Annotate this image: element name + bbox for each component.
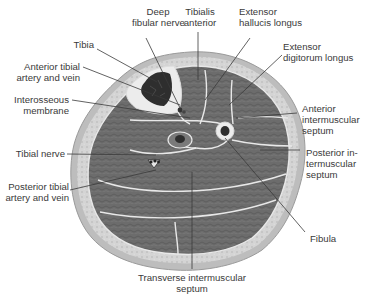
label-extensor-hallucis-longus: Extensor hallucis longus bbox=[239, 6, 302, 28]
label-extensor-digitorum-longus: Extensor digitorum longus bbox=[283, 41, 353, 63]
label-anterior-intermuscular-septum: Anterior intermuscular septum bbox=[302, 103, 360, 136]
leg-cross-section-diagram: Deep fibular nerve Tibialis anterior Ext… bbox=[0, 0, 367, 303]
label-interosseous-membrane: Interosseous membrane bbox=[5, 94, 69, 116]
label-deep-fibular-nerve: Deep fibular nerve bbox=[132, 6, 184, 28]
label-tibialis-anterior: Tibialis anterior bbox=[182, 6, 218, 28]
label-transverse-intermuscular-septum: Transverse intermuscular septum bbox=[132, 272, 252, 294]
label-posterior-intermuscular-septum: Posterior in- termuscular septum bbox=[306, 147, 358, 180]
label-anterior-tibial-artery-vein: Anterior tibial artery and vein bbox=[5, 61, 80, 83]
label-posterior-tibial-artery-vein: Posterior tibial artery and vein bbox=[3, 181, 69, 203]
label-tibial-nerve: Tibial nerve bbox=[5, 148, 65, 159]
label-fibula: Fibula bbox=[310, 233, 336, 244]
label-tibia: Tibia bbox=[40, 39, 94, 50]
